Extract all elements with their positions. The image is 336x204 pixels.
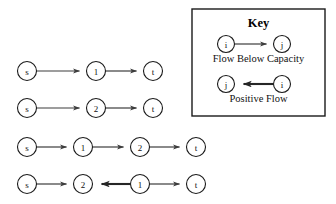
path-2-0-node-label: s [25,104,29,114]
key-title: Key [248,16,270,30]
key-entry-1-node-1-label: j [280,40,284,50]
key-entry-2-node-1-label: j [224,80,228,90]
diagram-canvas: s1ts2ts12ts21t KeyijFlow Below Capacityi… [0,0,336,204]
path-1: s1t [18,62,163,81]
path-3-0-node-label: s [25,143,29,153]
key-entry-2-caption: Positive Flow [229,93,287,104]
path-1-1-node-label: 1 [94,67,99,77]
augmenting-paths-layer: s1ts2ts12ts21t [18,62,206,194]
path-4-0-node-label: s [25,180,29,190]
path-4: s21t [18,175,206,194]
path-3-1-node-label: 1 [81,143,86,153]
path-4-2-node-label: 1 [138,180,143,190]
path-3-2-node-label: 2 [138,143,143,153]
path-3: s12t [18,138,206,157]
key-entry-1-caption: Flow Below Capacity [213,53,305,64]
path-2: s2t [18,99,163,118]
key-legend: KeyijFlow Below CapacityijPositive Flow [192,9,325,116]
path-2-1-node-label: 2 [94,104,99,114]
path-4-1-node-label: 2 [81,180,86,190]
flow-network-figure: s1ts2ts12ts21t KeyijFlow Below Capacityi… [0,0,336,204]
path-1-0-node-label: s [25,67,29,77]
